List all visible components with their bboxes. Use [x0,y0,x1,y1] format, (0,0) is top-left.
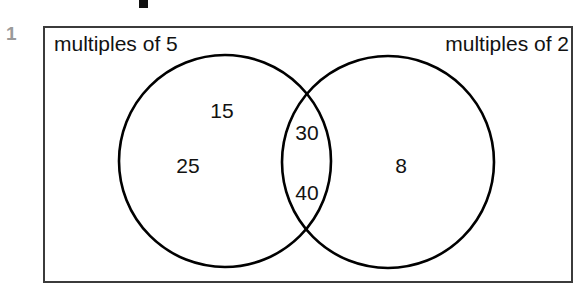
venn-circle-right [282,56,494,268]
venn-value-intersection-lower: 40 [295,182,318,203]
venn-circle-left [119,55,331,267]
venn-value-intersection-upper: 30 [295,122,318,143]
clipped-title-remnant [139,0,148,8]
question-number: 1 [6,24,32,43]
venn-diagram [43,26,573,283]
venn-value-left-upper: 15 [210,100,233,121]
venn-value-right-only: 8 [395,155,407,176]
set-label-multiples-of-5: multiples of 5 [54,33,178,54]
venn-value-left-lower: 25 [176,155,199,176]
set-label-multiples-of-2: multiples of 2 [445,33,569,54]
